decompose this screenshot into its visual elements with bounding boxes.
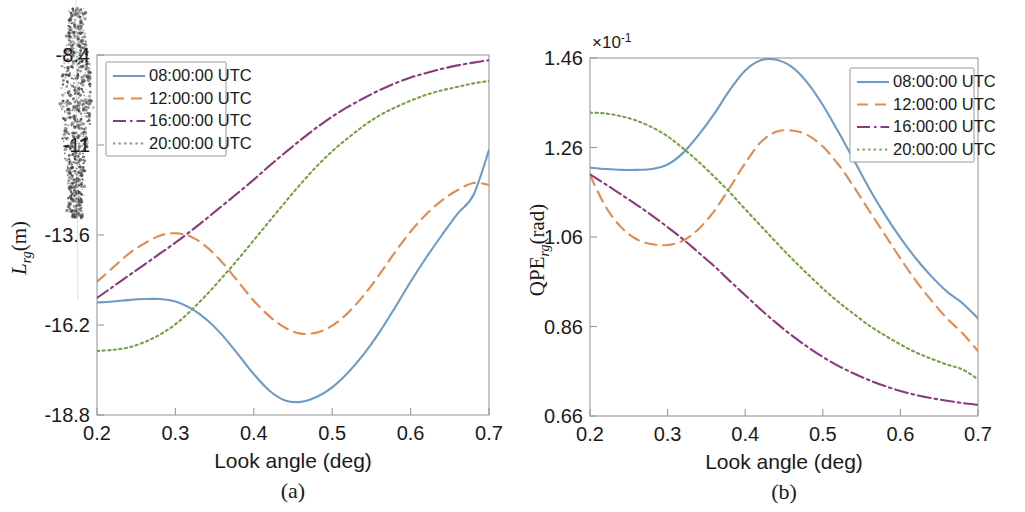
y-axis-label-a-unit: (m) [7,221,31,251]
curve-16-00-00-utc [590,174,978,404]
y-axis-multiplier-b: ×10-1 [592,31,632,52]
panel-a-svg: 0.2 0.3 0.4 0.5 0.6 0.7 -18.8 -16.2 -13.… [0,0,520,512]
y-axis-label-a: Lrg(m) [7,221,34,276]
y-tick-label-b-1: 0.86 [544,316,583,338]
svg-text:Lrg(m): Lrg(m) [7,221,34,276]
y-axis-label-b-sub: rg [537,245,552,257]
y-axis-label-a-base: L [7,263,31,276]
svg-text:QPErg(rad): QPErg(rad) [525,204,552,296]
legend-label-16-00-00-utc: 16:00:00 UTC [893,117,996,135]
panel-b: 0.2 0.3 0.4 0.5 0.6 0.7 0.66 0.86 1.06 1… [520,0,1025,512]
legend-label-20-00-00-utc: 20:00:00 UTC [149,134,252,152]
y-tick-label-a-3: -11 [63,134,90,156]
y-tick-label-a-2: -13.6 [44,224,90,246]
x-tick-label-b-3: 0.5 [809,423,837,445]
curve-12-00-00-utc [97,183,489,334]
legend-a[interactable]: 08:00:00 UTC12:00:00 UTC16:00:00 UTC20:0… [106,62,252,156]
y-axis-multiplier-base-b: ×10 [592,33,621,52]
legend-label-08-00-00-utc: 08:00:00 UTC [893,72,996,90]
legend-label-12-00-00-utc: 12:00:00 UTC [149,89,252,107]
subplot-label-a: (a) [281,478,305,503]
x-tick-label-a-1: 0.3 [161,422,189,444]
panel-b-svg: 0.2 0.3 0.4 0.5 0.6 0.7 0.66 0.86 1.06 1… [520,0,1025,512]
y-tick-label-b-3: 1.26 [544,137,583,159]
x-tick-label-a-3: 0.5 [318,422,346,444]
x-axis-label-a: Look angle (deg) [214,449,372,472]
subplot-label-b: (b) [771,479,797,504]
x-tick-label-a-5: 0.7 [475,422,503,444]
y-tick-label-b-4: 1.46 [544,47,583,69]
legend-label-20-00-00-utc: 20:00:00 UTC [893,140,996,158]
x-tick-label-b-4: 0.6 [886,423,914,445]
panel-a: 0.2 0.3 0.4 0.5 0.6 0.7 -18.8 -16.2 -13.… [0,0,520,512]
x-tick-label-b-5: 0.7 [964,423,992,445]
legend-b[interactable]: 08:00:00 UTC12:00:00 UTC16:00:00 UTC20:0… [850,68,996,162]
y-axis-label-b-unit: (rad) [525,204,549,245]
y-axis-label-a-sub: rg [19,251,34,263]
x-tick-label-a-2: 0.4 [240,422,268,444]
y-tick-label-a-1: -16.2 [44,314,90,336]
legend-label-08-00-00-utc: 08:00:00 UTC [149,66,252,84]
x-axis-label-b: Look angle (deg) [705,450,863,473]
y-axis-label-b: QPErg(rad) [525,204,552,296]
x-tick-label-b-1: 0.3 [654,423,682,445]
curve-08-00-00-utc [97,150,489,402]
y-axis-label-b-base: QPE [525,257,549,297]
y-tick-label-b-0: 0.66 [544,405,583,427]
legend-label-16-00-00-utc: 16:00:00 UTC [149,111,252,129]
y-tick-label-a-4: -8.4 [56,44,90,66]
figure-two-panel-plot: 0.2 0.3 0.4 0.5 0.6 0.7 -18.8 -16.2 -13.… [0,0,1025,512]
x-tick-label-a-4: 0.6 [397,422,425,444]
y-axis-multiplier-exp-b: -1 [621,31,632,45]
x-tick-label-b-2: 0.4 [731,423,759,445]
curve-12-00-00-utc [590,130,978,351]
legend-label-12-00-00-utc: 12:00:00 UTC [893,95,996,113]
y-tick-label-a-0: -18.8 [44,404,90,426]
